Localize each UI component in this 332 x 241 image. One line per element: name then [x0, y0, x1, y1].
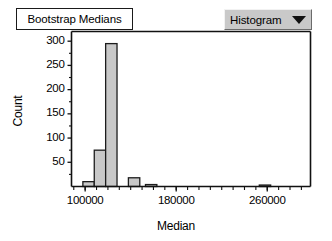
bars-group	[83, 44, 271, 187]
chart-title-text: Bootstrap Medians	[27, 13, 121, 25]
y-tick-label: 50	[25, 155, 65, 167]
y-tick-label: 250	[25, 58, 65, 70]
x-tick-label: 100000	[50, 194, 120, 206]
histogram-window: Count Median 50100150200250300 100000180…	[0, 0, 332, 241]
plot-type-dropdown[interactable]: Histogram	[224, 9, 312, 30]
chevron-down-icon	[292, 16, 306, 24]
x-axis-label: Median	[116, 219, 236, 233]
histogram-bar[interactable]	[106, 44, 117, 187]
y-axis-label: Count	[11, 81, 25, 141]
histogram-bar[interactable]	[128, 178, 139, 187]
x-tick-label: 260000	[232, 194, 302, 206]
y-tick-label: 150	[25, 106, 65, 118]
plot-area: Count Median 50100150200250300 100000180…	[0, 0, 332, 241]
plot-type-dropdown-label: Histogram	[230, 14, 289, 26]
y-tick-label: 100	[25, 131, 65, 143]
histogram-bar[interactable]	[94, 150, 105, 186]
y-tick-label: 300	[25, 34, 65, 46]
y-tick-label: 200	[25, 82, 65, 94]
x-tick-label: 180000	[141, 194, 211, 206]
chart-title-box[interactable]: Bootstrap Medians	[16, 8, 133, 30]
